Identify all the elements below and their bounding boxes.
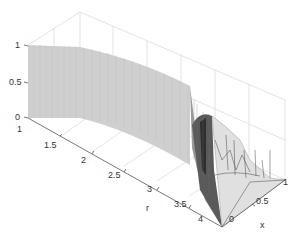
x-axis-label: x xyxy=(260,221,265,230)
z-tick-0-5: 0.5 xyxy=(9,78,22,87)
chaotic-region xyxy=(190,86,285,227)
x-tick-0-5: 0.5 xyxy=(256,197,269,206)
r-tick-1: 1 xyxy=(17,125,22,134)
z-tick-0: 0 xyxy=(15,113,20,122)
x-tick-1: 1 xyxy=(283,178,288,187)
r-tick-1-5: 1.5 xyxy=(44,141,57,150)
r-tick-2: 2 xyxy=(81,156,86,165)
r-axis-label: r xyxy=(146,204,149,213)
r-tick-3-5: 3.5 xyxy=(174,200,187,209)
r-tick-4: 4 xyxy=(198,215,203,224)
x-tick-0: 0 xyxy=(229,215,234,224)
z-tick-1: 1 xyxy=(15,41,20,50)
r-tick-3: 3 xyxy=(147,185,152,194)
r-tick-2-5: 2.5 xyxy=(108,171,121,180)
